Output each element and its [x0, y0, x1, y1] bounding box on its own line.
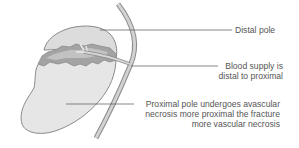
proximal-line-2: necrosis more proximal the fracture: [145, 109, 280, 119]
distal-pole-label: Distal pole: [235, 25, 275, 35]
proximal-pole-label: Proximal pole undergoes avascular necros…: [145, 99, 280, 129]
blood-supply-label: Blood supply is distal to proximal: [219, 61, 283, 81]
proximal-line-3: more vascular necrosis: [145, 119, 280, 129]
blood-supply-line-2: distal to proximal: [219, 71, 283, 81]
proximal-line-1: Proximal pole undergoes avascular: [145, 99, 280, 109]
blood-supply-line-1: Blood supply is: [219, 61, 283, 71]
